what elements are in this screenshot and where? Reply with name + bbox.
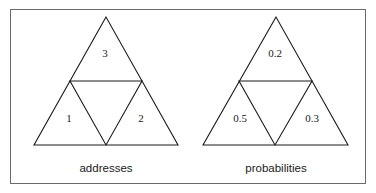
region-left-label: 0.5 <box>233 112 247 124</box>
probabilities-caption: probabilities <box>245 162 307 174</box>
inner-inverted-triangle <box>70 81 142 145</box>
inner-inverted-triangle <box>239 81 312 145</box>
triangle-diagrams: 3 1 2 addresses 0.2 0.5 0.3 probabilitie… <box>0 0 376 193</box>
addresses-triangle <box>34 17 178 145</box>
region-top-label: 0.2 <box>268 47 282 59</box>
probabilities-triangle <box>203 17 348 145</box>
region-left-label: 1 <box>66 112 72 124</box>
region-right-label: 0.3 <box>305 112 319 124</box>
region-right-label: 2 <box>138 112 144 124</box>
region-top-label: 3 <box>102 47 108 59</box>
addresses-caption: addresses <box>79 162 132 174</box>
